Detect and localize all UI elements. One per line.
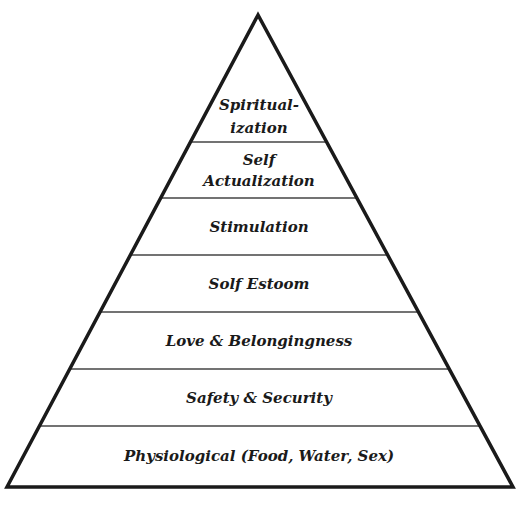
level-label: Safety & Security [186, 389, 333, 407]
level-label: Stimulation [209, 218, 308, 236]
pyramid-svg: Spiritual-izationSelfActualizationStimul… [0, 0, 526, 508]
level-label: Physiological (Food, Water, Sex) [123, 447, 394, 465]
level-labels: Spiritual-izationSelfActualizationStimul… [123, 96, 394, 465]
pyramid-outline [7, 15, 513, 487]
level-label: Solf Estoom [209, 275, 310, 293]
hierarchy-pyramid-diagram: Spiritual-izationSelfActualizationStimul… [0, 0, 526, 508]
level-label: Love & Belongingness [165, 332, 353, 350]
level-label: Actualization [201, 172, 315, 190]
level-label: Self [243, 151, 278, 169]
level-label: Spiritual- [219, 96, 299, 114]
level-label: ization [230, 119, 287, 137]
